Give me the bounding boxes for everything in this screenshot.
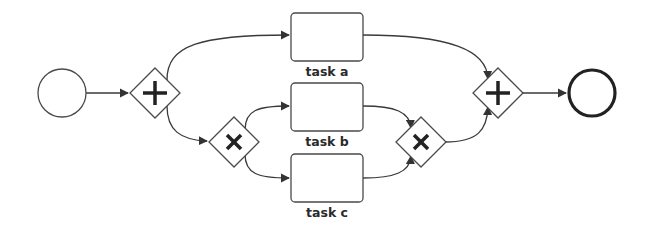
task-label: task a <box>306 64 349 79</box>
bpmn-diagram: task a task b task c <box>0 0 647 232</box>
parallel-gateway-join[interactable] <box>473 68 523 118</box>
task-a[interactable]: task a <box>291 13 363 79</box>
task-b[interactable]: task b <box>291 83 363 149</box>
edge-task-c-to-xor-join <box>363 156 411 178</box>
start-event[interactable] <box>38 69 86 117</box>
task-c[interactable]: task c <box>291 154 363 220</box>
edge-task-b-to-xor-join <box>363 106 411 128</box>
parallel-gateway-split[interactable] <box>130 68 180 118</box>
task-box <box>291 13 363 61</box>
task-box <box>291 154 363 202</box>
edge-and-split-to-task-a <box>167 35 289 80</box>
task-label: task c <box>306 205 348 220</box>
edge-and-split-to-xor-split <box>167 106 207 141</box>
edge-xor-split-to-task-b <box>245 106 289 130</box>
edge-xor-join-to-and-join <box>445 107 488 142</box>
exclusive-gateway-split[interactable] <box>209 117 259 167</box>
task-label: task b <box>305 134 349 149</box>
end-event[interactable] <box>569 70 615 116</box>
exclusive-gateway-join[interactable] <box>396 117 446 167</box>
edge-xor-split-to-task-c <box>245 154 289 178</box>
task-box <box>291 83 363 131</box>
edge-task-a-to-and-join <box>363 35 488 79</box>
